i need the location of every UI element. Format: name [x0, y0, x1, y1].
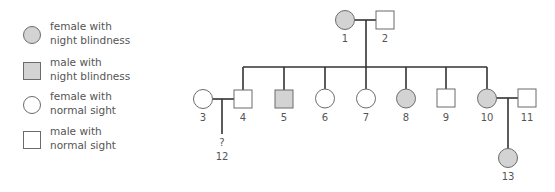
label-3: 3: [200, 112, 206, 123]
individual-13-affected-female-icon: [499, 149, 518, 168]
label-12: 12: [216, 151, 229, 162]
pedigree-chart: 1 2 3 4 5 6 7 8 9 10 11 ? 12 13: [0, 0, 555, 192]
label-6: 6: [322, 112, 328, 123]
individual-9-normal-male-icon: [437, 89, 455, 107]
individual-2-normal-male-icon: [376, 11, 394, 29]
label-1: 1: [342, 33, 348, 44]
individual-11-normal-male-icon: [518, 89, 536, 107]
label-4: 4: [240, 112, 246, 123]
pedigree-lines: [212, 20, 518, 149]
label-2: 2: [382, 33, 388, 44]
label-5: 5: [281, 112, 287, 123]
individual-7-normal-female-icon: [357, 89, 376, 108]
unknown-marker-12: ?: [219, 137, 224, 148]
individual-8-affected-female-icon: [397, 89, 416, 108]
individual-5-affected-male-icon: [275, 90, 293, 108]
individual-4-normal-male-icon: [234, 90, 252, 108]
individual-1-affected-female-icon: [336, 11, 355, 30]
individual-3-normal-female-icon: [194, 90, 213, 109]
label-8: 8: [403, 112, 409, 123]
label-13: 13: [502, 171, 515, 182]
individual-10-affected-female-icon: [478, 89, 497, 108]
label-7: 7: [363, 112, 369, 123]
label-10: 10: [481, 112, 494, 123]
individual-6-normal-female-icon: [316, 89, 335, 108]
label-9: 9: [443, 112, 449, 123]
label-11: 11: [521, 112, 534, 123]
